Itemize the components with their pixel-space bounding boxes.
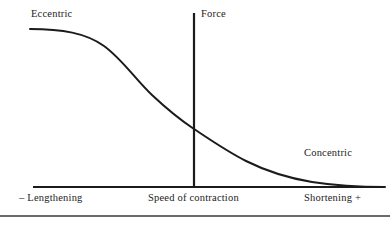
speed-of-contraction-axis-label: Speed of contraction (148, 192, 239, 204)
force-velocity-curve (30, 29, 385, 187)
force-velocity-figure: Eccentric Force Concentric – Lengthening… (0, 0, 390, 225)
shortening-axis-label: Shortening + (304, 192, 361, 204)
force-axis-label: Force (201, 8, 226, 20)
eccentric-label: Eccentric (31, 8, 72, 20)
concentric-label: Concentric (304, 147, 352, 159)
lengthening-axis-label: – Lengthening (19, 192, 83, 204)
